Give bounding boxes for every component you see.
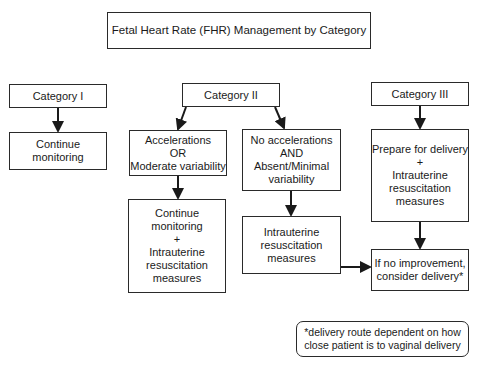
category-2-label: Category II (204, 89, 258, 102)
category-2-branch-a-box: Accelerations OR Moderate variability (129, 130, 227, 176)
category-3-box: Category III (371, 82, 469, 106)
category-3-action: Prepare for delivery + Intrauterine resu… (372, 143, 468, 208)
category-1-action: Continue monitoring (32, 138, 83, 164)
diagram-title-box: Fetal Heart Rate (FHR) Management by Cat… (107, 12, 371, 49)
outcome-text: If no improvement, consider delivery* (374, 257, 465, 283)
branch-a-condition: Accelerations OR Moderate variability (130, 134, 225, 173)
category-2-branch-a-action-box: Continue monitoring + Intrauterine resus… (128, 199, 226, 293)
arrow-cat2-to-accelerations (178, 107, 186, 129)
category-3-label: Category III (392, 88, 449, 101)
category-1-label: Category I (33, 90, 84, 103)
branch-b-condition: No accelerations AND Absent/Minimal vari… (251, 134, 333, 186)
footnote-box: *delivery route dependent on how close p… (296, 321, 469, 357)
category-1-box: Category I (9, 84, 107, 108)
footnote-text: *delivery route dependent on how close p… (304, 326, 460, 352)
category-2-branch-b-box: No accelerations AND Absent/Minimal vari… (242, 129, 341, 191)
category-1-action-box: Continue monitoring (9, 132, 107, 170)
category-2-box: Category II (182, 83, 280, 107)
branch-b-action: Intrauterine resuscitation measures (261, 226, 323, 265)
diagram-title: Fetal Heart Rate (FHR) Management by Cat… (112, 24, 366, 37)
arrow-cat2-to-no-accelerations (275, 107, 284, 128)
category-3-action-box: Prepare for delivery + Intrauterine resu… (371, 129, 469, 222)
branch-a-action: Continue monitoring + Intrauterine resus… (146, 207, 208, 285)
category-2-branch-b-action-box: Intrauterine resuscitation measures (242, 216, 341, 274)
outcome-box: If no improvement, consider delivery* (371, 249, 469, 291)
